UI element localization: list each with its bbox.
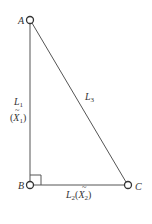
label-c: C	[135, 181, 142, 192]
label-l2: L2(X2)	[65, 189, 91, 202]
label-a: A	[17, 15, 25, 26]
vertex-a	[27, 17, 34, 24]
vertex-b	[27, 182, 34, 189]
label-l2-tilde: ~	[82, 183, 87, 192]
edge-ac	[32, 23, 126, 182]
vertex-c	[125, 182, 132, 189]
label-l3: L3	[84, 91, 95, 104]
label-l1-tilde: ~	[15, 106, 20, 115]
label-b: B	[18, 180, 24, 191]
triangle-diagram: A B C L1 (X1) ~ L2(X2) ~ L3	[0, 0, 152, 224]
